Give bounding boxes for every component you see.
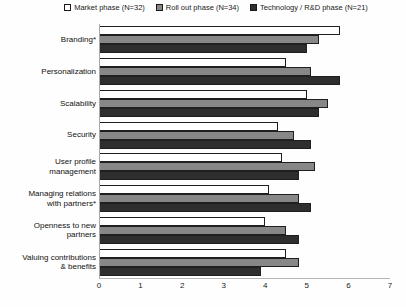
x-tick-label-0: 0: [97, 281, 101, 290]
x-tick-label-7: 7: [388, 281, 392, 290]
x-tick-label-3: 3: [221, 281, 225, 290]
bar-managing-relations-with-partners--technology-r-d-phase-n-21: [99, 203, 311, 212]
x-tick-label-2: 2: [180, 281, 184, 290]
bar-managing-relations-with-partners--roll-out-phase-n-34: [99, 194, 299, 203]
bar-user-profile-management--market-phase-n-32: [99, 153, 282, 162]
bar-managing-relations-with-partners--market-phase-n-32: [99, 185, 269, 194]
bar-personalization--roll-out-phase-n-34: [99, 67, 311, 76]
bar-personalization--technology-r-d-phase-n-21: [99, 76, 340, 85]
bar-branding--market-phase-n-32: [99, 26, 340, 35]
x-tick-label-1: 1: [138, 281, 142, 290]
legend-label: Market phase (N=32): [74, 3, 145, 12]
bar-branding--technology-r-d-phase-n-21: [99, 44, 307, 53]
category-label-openness-to-new-partners: Openness to new partners: [2, 215, 96, 247]
category-label-user-profile-management: User profile management: [2, 151, 96, 183]
bar-branding--roll-out-phase-n-34: [99, 35, 319, 44]
bar-personalization--market-phase-n-32: [99, 58, 286, 67]
bar-chart-figure: Market phase (N=32)Roll out phase (N=34)…: [0, 0, 406, 307]
legend-label: Technology / R&D phase (N=21): [260, 3, 368, 12]
chart-legend: Market phase (N=32)Roll out phase (N=34)…: [0, 3, 406, 12]
bar-scalability--market-phase-n-32: [99, 90, 307, 99]
y-axis-line: [99, 24, 100, 278]
bar-user-profile-management--roll-out-phase-n-34: [99, 162, 315, 171]
legend-item-roll-out-phase-n-34: Roll out phase (N=34): [156, 3, 239, 12]
legend-item-market-phase-n-32: Market phase (N=32): [64, 3, 145, 12]
category-label-managing-relations-with-partners: Managing relations with partners*: [2, 183, 96, 215]
category-label-personalization: Personalization: [2, 56, 96, 88]
category-label-security: Security: [2, 119, 96, 151]
bar-scalability--roll-out-phase-n-34: [99, 99, 328, 108]
legend-label: Roll out phase (N=34): [166, 3, 239, 12]
bar-openness-to-new-partners--market-phase-n-32: [99, 217, 265, 226]
x-tick-label-6: 6: [346, 281, 350, 290]
x-tick-label-5: 5: [305, 281, 309, 290]
x-axis-line: [99, 278, 390, 279]
x-tick-label-4: 4: [263, 281, 267, 290]
bar-valuing-contributions-benefits--roll-out-phase-n-34: [99, 258, 299, 267]
bar-openness-to-new-partners--technology-r-d-phase-n-21: [99, 235, 299, 244]
category-label-valuing-contributions-benefits: Valuing contributions & benefits: [2, 246, 96, 278]
legend-swatch-market-phase-n-32: [64, 4, 71, 11]
bar-security--roll-out-phase-n-34: [99, 131, 294, 140]
bar-valuing-contributions-benefits--market-phase-n-32: [99, 249, 286, 258]
category-label-scalability: Scalability: [2, 88, 96, 120]
bar-scalability--technology-r-d-phase-n-21: [99, 108, 319, 117]
bar-security--market-phase-n-32: [99, 122, 278, 131]
category-label-branding: Branding*: [2, 24, 96, 56]
bar-openness-to-new-partners--roll-out-phase-n-34: [99, 226, 286, 235]
legend-swatch-roll-out-phase-n-34: [156, 4, 163, 11]
legend-swatch-technology-r-d-phase-n-21: [250, 4, 257, 11]
bar-user-profile-management--technology-r-d-phase-n-21: [99, 171, 299, 180]
legend-item-technology-r-d-phase-n-21: Technology / R&D phase (N=21): [250, 3, 368, 12]
bar-valuing-contributions-benefits--technology-r-d-phase-n-21: [99, 267, 261, 276]
bar-security--technology-r-d-phase-n-21: [99, 140, 311, 149]
